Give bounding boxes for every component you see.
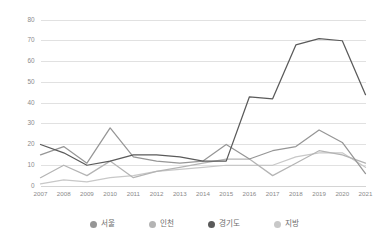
legend-item-label: 지방 <box>285 220 299 228</box>
chart-legend: 서울인천경기도지방 <box>0 205 388 243</box>
legend-item-인천[interactable]: 인천 <box>149 220 174 228</box>
y-tick-label-50: 50 <box>27 78 35 85</box>
y-axis-tick-labels: 01020304050607080 <box>27 16 35 189</box>
line-chart: 01020304050607080 2007200820092010201120… <box>0 0 388 243</box>
data-series-group <box>41 39 366 184</box>
x-tick-label-2014: 2014 <box>196 190 210 197</box>
legend-marker-icon <box>274 221 281 228</box>
legend-marker-icon <box>149 221 156 228</box>
x-tick-label-2012: 2012 <box>150 190 164 197</box>
series-line-경기도 <box>41 39 366 166</box>
x-tick-label-2021: 2021 <box>359 190 373 197</box>
x-tick-label-2013: 2013 <box>173 190 187 197</box>
x-tick-label-2011: 2011 <box>127 190 141 197</box>
legend-marker-icon <box>90 221 97 228</box>
y-tick-label-10: 10 <box>27 161 35 168</box>
legend-item-label: 서울 <box>101 220 115 228</box>
x-tick-label-2015: 2015 <box>219 190 233 197</box>
x-tick-label-2020: 2020 <box>335 190 349 197</box>
x-tick-label-2009: 2009 <box>80 190 94 197</box>
legend-item-지방[interactable]: 지방 <box>274 220 299 228</box>
legend-item-서울[interactable]: 서울 <box>90 220 115 228</box>
series-line-지방 <box>41 153 366 184</box>
x-tick-label-2007: 2007 <box>34 190 48 197</box>
legend-marker-icon <box>208 221 215 228</box>
legend-item-경기도[interactable]: 경기도 <box>208 220 240 228</box>
y-tick-label-60: 60 <box>27 57 35 64</box>
legend-item-label: 경기도 <box>219 220 240 228</box>
y-tick-label-80: 80 <box>27 16 35 23</box>
plot-area: 01020304050607080 2007200820092010201120… <box>0 0 388 205</box>
x-tick-label-2016: 2016 <box>243 190 257 197</box>
y-tick-label-20: 20 <box>27 140 35 147</box>
y-tick-label-40: 40 <box>27 99 35 106</box>
legend-item-label: 인천 <box>160 220 174 228</box>
x-axis-tick-labels: 2007200820092010201120122013201420152016… <box>34 190 373 197</box>
x-tick-label-2010: 2010 <box>103 190 117 197</box>
y-tick-label-30: 30 <box>27 119 35 126</box>
x-tick-label-2019: 2019 <box>312 190 326 197</box>
y-tick-label-0: 0 <box>31 182 35 189</box>
y-tick-label-70: 70 <box>27 36 35 43</box>
x-tick-label-2017: 2017 <box>266 190 280 197</box>
x-tick-label-2008: 2008 <box>57 190 71 197</box>
x-tick-label-2018: 2018 <box>289 190 303 197</box>
chart-canvas: 01020304050607080 2007200820092010201120… <box>0 0 388 205</box>
